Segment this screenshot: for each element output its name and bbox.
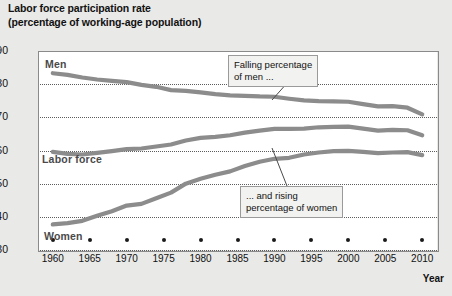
annotation-women-line-2: percentage of women: [246, 202, 337, 214]
y-axis-tick-80: 80: [0, 77, 8, 89]
series-label-labor-force: Labor force: [42, 153, 102, 165]
series-label-men: Men: [45, 58, 67, 70]
x-axis-tick-1960: 1960: [42, 253, 64, 264]
annotation-men-line-1: Falling percentage: [234, 59, 312, 71]
annotation-women-line-1: ... and rising: [246, 190, 337, 202]
annotation-men: Falling percentage of men ...: [228, 55, 318, 87]
x-axis-tick-1985: 1985: [226, 253, 248, 264]
y-axis-tick-40: 40: [0, 210, 8, 222]
x-axis-tick-1980: 1980: [189, 253, 211, 264]
x-axis-tick-2000: 2000: [337, 253, 359, 264]
x-axis-tick-1975: 1975: [152, 253, 174, 264]
y-axis-tick-30: 30: [0, 243, 8, 255]
series-line-women: [53, 151, 422, 225]
x-axis-tick-2010: 2010: [411, 253, 433, 264]
y-axis-tick-70: 70: [0, 110, 8, 122]
x-axis-tick-2005: 2005: [374, 253, 396, 264]
chart-title: Labor force participation rate (percenta…: [8, 2, 308, 29]
x-axis-tick-1990: 1990: [263, 253, 285, 264]
x-axis-title: Year: [423, 273, 444, 284]
x-axis-tick-1995: 1995: [300, 253, 322, 264]
x-axis-tick-1970: 1970: [116, 253, 138, 264]
y-axis-tick-90: 90: [0, 44, 8, 56]
y-axis-tick-50: 50: [0, 177, 8, 189]
annotation-women: ... and rising percentage of women: [240, 186, 343, 218]
x-axis-tick-1965: 1965: [79, 253, 101, 264]
chart-title-line-1: Labor force participation rate: [8, 2, 308, 16]
chart-title-line-2: (percentage of working-age population): [8, 16, 308, 30]
annotation-men-line-2: of men ...: [234, 71, 312, 83]
series-label-women: Women: [44, 230, 83, 242]
gridline-30: [38, 250, 437, 251]
chart-figure: Labor force participation rate (percenta…: [0, 0, 452, 296]
y-axis-tick-60: 60: [0, 144, 8, 156]
